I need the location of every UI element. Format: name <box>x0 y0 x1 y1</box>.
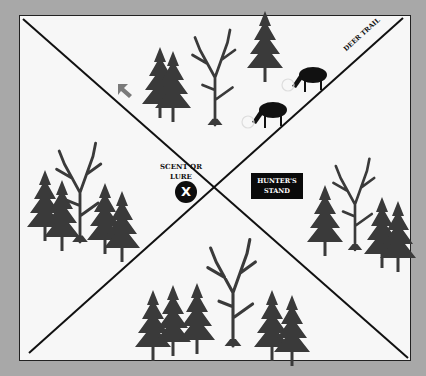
deer-trail-line <box>29 18 403 353</box>
hunters-stand-label: HUNTER'S STAND <box>251 173 303 199</box>
scent-label-line2: LURE <box>156 172 206 182</box>
stand-label-line1: HUNTER'S <box>251 176 303 186</box>
bottom-quadrant-trees <box>135 240 310 366</box>
arrow-icon <box>118 84 132 98</box>
left-quadrant-trees <box>27 143 140 262</box>
scent-label: SCENT OR LURE <box>156 162 206 182</box>
scent-label-line1: SCENT OR <box>156 162 206 172</box>
scent-marker: X <box>175 181 197 203</box>
stand-label-line2: STAND <box>251 186 303 196</box>
diagram-svg <box>0 0 426 376</box>
right-quadrant-trees <box>307 159 416 272</box>
